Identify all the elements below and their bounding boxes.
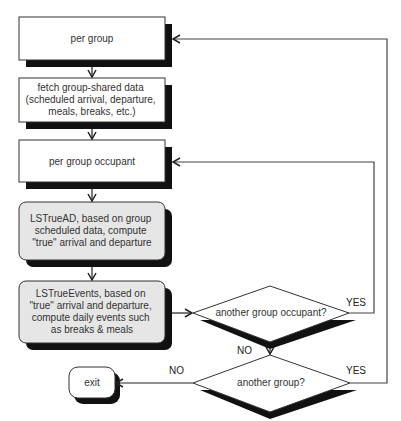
node-ls-true-ad: LSTrueAD, based on group scheduled data,… — [19, 202, 172, 267]
edge-label-occupant-yes: YES — [346, 297, 366, 308]
node-per-group-occupant: per group occupant — [19, 140, 172, 189]
node-label: LSTrueAD, based on group scheduled data,… — [30, 213, 154, 248]
edge-label-group-yes: YES — [346, 365, 366, 376]
flowchart: per group fetch group-shared data (sched… — [0, 0, 401, 421]
edge-label-occupant-no: NO — [237, 345, 252, 356]
node-label: exit — [84, 377, 100, 388]
node-ls-true-events: LSTrueEvents, based on "true" arrival an… — [19, 281, 172, 350]
decision-another-occupant: another group occupant? — [193, 286, 356, 349]
decision-label: another group occupant? — [215, 307, 327, 318]
node-label: per group occupant — [49, 156, 135, 167]
node-label: per group — [71, 33, 114, 44]
node-exit: exit — [69, 367, 120, 404]
node-fetch-data: fetch group-shared data (scheduled arriv… — [19, 78, 172, 129]
edge-label-group-no: NO — [169, 365, 184, 376]
node-per-group: per group — [19, 17, 172, 67]
decision-another-group: another group? — [193, 355, 357, 419]
decision-label: another group? — [237, 377, 305, 388]
